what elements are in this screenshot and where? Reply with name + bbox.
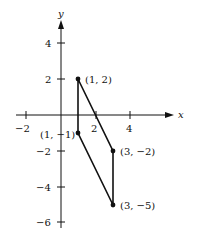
vertex-3-neg2 (111, 149, 116, 154)
vertex-1-2 (76, 77, 81, 82)
point-label-3-neg2: (3, −2) (120, 146, 155, 157)
x-tick-label-2: 2 (91, 123, 97, 134)
point-label-1-neg1: (1, −1) (40, 129, 75, 140)
x-tick-label-4: 4 (126, 123, 132, 134)
y-tick-label-4: 4 (45, 38, 51, 49)
y-tick-label-neg6: −6 (36, 217, 51, 228)
coordinate-plane: x y −2 2 4 4 2 −2 −4 −6 (1, 2) (1, −1) (… (0, 0, 198, 240)
y-tick-label-2: 2 (45, 74, 51, 85)
y-tick-label-neg4: −4 (36, 182, 51, 193)
x-tick-label-neg2: −2 (15, 123, 30, 134)
y-axis-label: y (57, 8, 64, 19)
quadrilateral (78, 79, 113, 205)
y-axis-arrow-icon (58, 20, 64, 29)
x-axis-label: x (178, 109, 184, 120)
point-label-1-2: (1, 2) (85, 74, 112, 85)
x-axis-arrow-icon (165, 112, 174, 118)
vertex-3-neg5 (111, 203, 116, 208)
vertex-1-neg1 (76, 131, 81, 136)
point-label-3-neg5: (3, −5) (120, 200, 155, 211)
y-tick-label-neg2: −2 (36, 146, 51, 157)
